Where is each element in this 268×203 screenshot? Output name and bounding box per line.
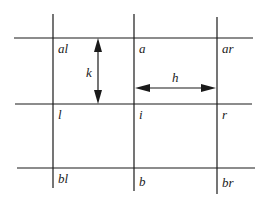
h-dimension-arrow [135, 84, 216, 92]
node-label-i: i [139, 107, 143, 122]
node-label-l: l [58, 107, 62, 122]
k-dimension-arrow [94, 38, 102, 104]
node-label-b: b [139, 174, 146, 189]
k-label: k [86, 65, 92, 80]
node-label-al: al [58, 41, 69, 56]
node-label-br: br [222, 175, 235, 190]
grid-diagram: k h al a ar l i r bl b br [0, 0, 268, 203]
h-label: h [172, 70, 179, 85]
node-label-ar: ar [222, 41, 235, 56]
node-label-a: a [139, 41, 146, 56]
node-label-r: r [222, 107, 228, 122]
node-label-bl: bl [58, 171, 69, 186]
